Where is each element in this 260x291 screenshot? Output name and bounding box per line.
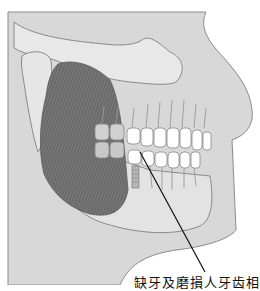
callout-label: 缺牙及磨損人牙齿相 [134, 272, 260, 291]
dental-implant [132, 166, 139, 188]
